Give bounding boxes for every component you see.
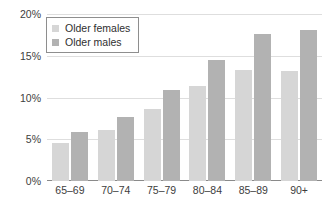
x-axis: 65–6970–7475–7980–8485–8990+ [47,184,322,196]
bar-group [184,14,230,181]
y-tick-label: 0% [0,175,41,187]
legend-item-label: Older females [65,22,130,34]
bar-group [230,14,276,181]
bar [189,86,206,181]
x-tick-label: 85–89 [230,184,276,196]
chart-legend: Older females Older males [46,17,139,53]
bar [254,34,271,181]
x-tick-label: 80–84 [184,184,230,196]
x-tick-label: 70–74 [93,184,139,196]
bar [98,130,115,181]
bar [235,70,252,181]
bar-group [139,14,185,181]
y-tick-label: 15% [0,50,41,62]
bar-group [276,14,322,181]
legend-swatch-icon [52,39,59,46]
bar [71,132,88,181]
x-tick-label: 90+ [276,184,322,196]
legend-swatch-icon [52,25,59,32]
y-tick-label: 20% [0,8,41,20]
bar [300,30,317,181]
x-tick-label: 75–79 [139,184,185,196]
legend-item-older-females: Older females [52,22,130,34]
y-tick-label: 5% [0,133,41,145]
legend-item-label: Older males [65,36,122,48]
bar [117,117,134,181]
x-tick-label: 65–69 [47,184,93,196]
bar-chart: 20% 15% 10% 5% 0% 65–6970–7475–7980–8485… [0,0,326,206]
bar [281,71,298,181]
bar [208,60,225,181]
bar [144,109,161,181]
bar [163,90,180,181]
y-tick-label: 10% [0,92,41,104]
bar [52,143,69,181]
legend-item-older-males: Older males [52,36,130,48]
